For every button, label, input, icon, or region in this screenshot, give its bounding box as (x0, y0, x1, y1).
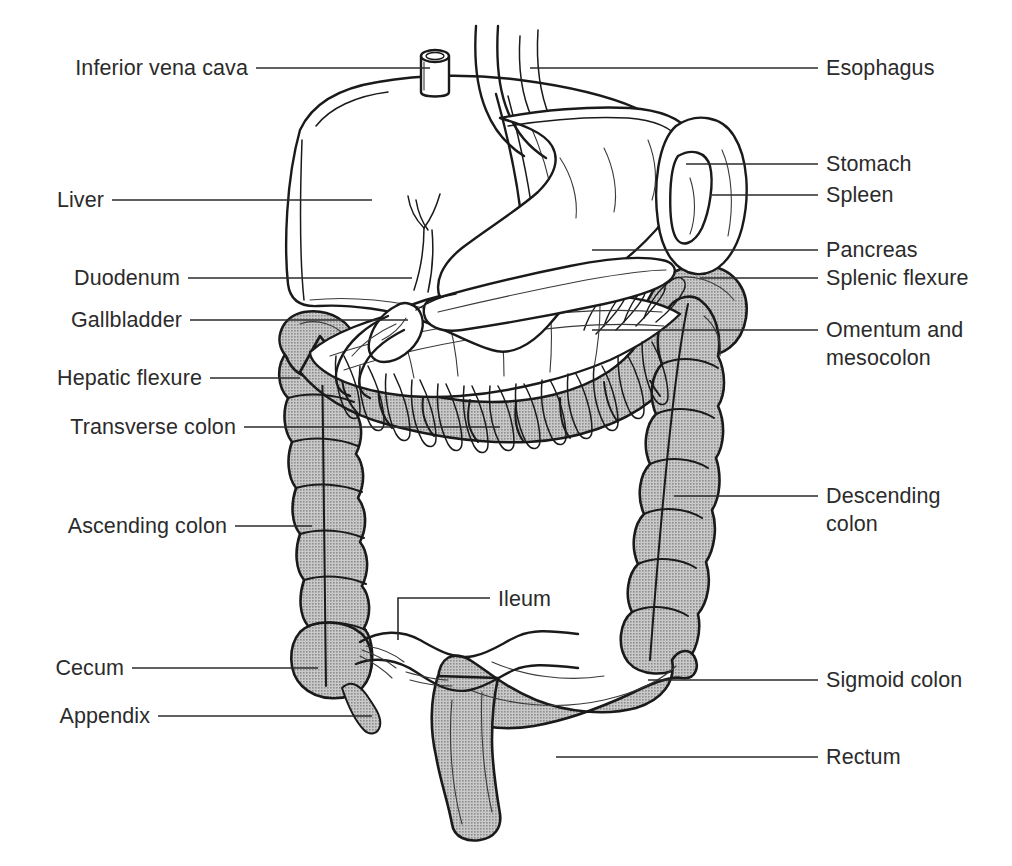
label-inferior-vena-cava: Inferior vena cava (75, 56, 248, 80)
label-gallbladder: Gallbladder (71, 308, 182, 332)
rectum (432, 676, 501, 840)
label-sigmoid-colon: Sigmoid colon (826, 668, 962, 692)
label-esophagus: Esophagus (826, 56, 934, 80)
label-pancreas: Pancreas (826, 238, 918, 262)
label-stomach: Stomach (826, 152, 912, 176)
label-omentum-line1: Omentum and (826, 318, 963, 342)
label-transverse-colon: Transverse colon (70, 415, 236, 439)
label-descending-colon-line2: colon (826, 512, 878, 536)
anatomy-diagram: Inferior vena cavaLiverDuodenumGallbladd… (0, 0, 1012, 866)
label-ascending-colon: Ascending colon (68, 514, 227, 538)
label-ileum: Ileum (498, 587, 551, 611)
label-splenic-flexure: Splenic flexure (826, 266, 969, 290)
label-duodenum: Duodenum (74, 266, 180, 290)
label-descending-colon-line1: Descending (826, 484, 941, 508)
label-hepatic-flexure: Hepatic flexure (57, 366, 202, 390)
appendix (342, 684, 380, 734)
label-rectum: Rectum (826, 745, 901, 769)
leader-ileum (398, 598, 490, 640)
label-spleen: Spleen (826, 183, 894, 207)
label-liver: Liver (57, 188, 104, 212)
inferior-vena-cava (421, 50, 449, 97)
label-appendix: Appendix (60, 704, 151, 728)
label-cecum: Cecum (55, 656, 124, 680)
label-omentum-line2: mesocolon (826, 346, 931, 370)
